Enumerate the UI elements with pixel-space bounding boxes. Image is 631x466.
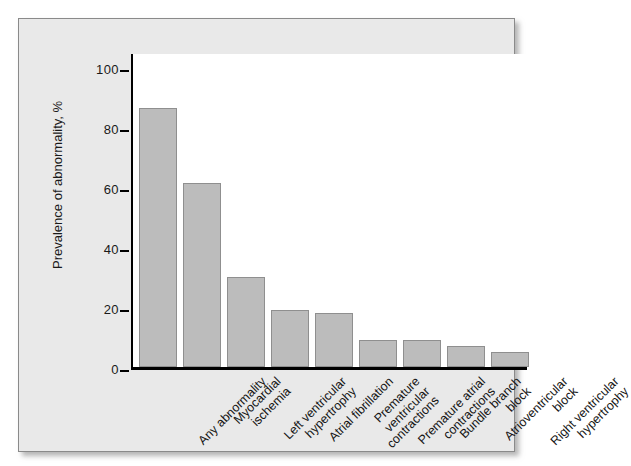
y-tick-mark: [120, 310, 129, 312]
y-tick-mark: [120, 70, 129, 72]
bar: [183, 183, 221, 367]
y-tick-label: 0: [111, 362, 119, 377]
y-tick-mark: [120, 250, 129, 252]
chart-panel: Prevalence of abnormality, % 0 20 40 60 …: [18, 18, 515, 452]
y-tick-label: 20: [104, 302, 119, 317]
y-axis-title-container: Prevalence of abnormality, %: [55, 149, 75, 369]
bar: [139, 108, 177, 367]
bar: [271, 310, 309, 367]
y-tick-label: 40: [104, 242, 119, 257]
y-axis-title: Prevalence of abnormality, %: [50, 49, 65, 269]
plot-area: [131, 54, 527, 370]
x-axis-tick-labels: Any abnormalityMyocardialischemiaLeft ve…: [131, 375, 527, 466]
y-tick-label: 80: [104, 122, 119, 137]
bar: [227, 277, 265, 367]
bar: [491, 352, 529, 367]
bar: [403, 340, 441, 367]
y-tick-label: 100: [96, 62, 119, 77]
bar: [315, 313, 353, 367]
y-tick-label: 60: [104, 182, 119, 197]
y-tick-mark: [120, 130, 129, 132]
y-axis-tick-labels: 0 20 40 60 80 100: [81, 54, 119, 370]
bar: [359, 340, 397, 367]
y-tick-mark: [120, 370, 129, 372]
bar: [447, 346, 485, 367]
y-tick-mark: [120, 190, 129, 192]
bars-container: [133, 54, 527, 367]
